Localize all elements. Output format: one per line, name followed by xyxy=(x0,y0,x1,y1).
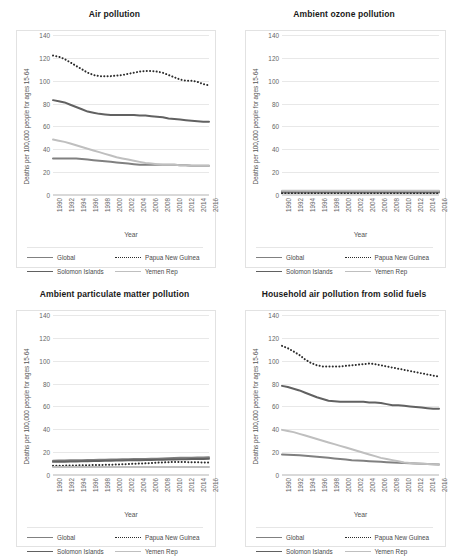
y-tick: 0 xyxy=(275,472,279,479)
chart-legend: GlobalPapua New GuineaSolomon IslandsYem… xyxy=(256,527,433,555)
legend-swatch-icon xyxy=(115,271,141,272)
legend-swatch-icon xyxy=(256,257,282,258)
x-tick: 2006 xyxy=(381,198,388,212)
legend-item-solomon-islands[interactable]: Solomon Islands xyxy=(256,548,345,555)
series-line-papua-new-guinea xyxy=(53,462,209,466)
legend-label: Solomon Islands xyxy=(286,548,333,555)
y-tick: 80 xyxy=(272,100,279,107)
x-tick: 2008 xyxy=(164,198,171,212)
x-axis-line xyxy=(53,194,209,195)
series-canvas xyxy=(282,35,439,195)
plot-region xyxy=(282,35,439,195)
y-tick: 60 xyxy=(43,123,50,130)
y-axis-ticks: 020406080100120140 xyxy=(32,35,52,195)
legend-item-solomon-islands[interactable]: Solomon Islands xyxy=(27,548,115,555)
x-tick: 2000 xyxy=(116,478,123,492)
y-tick: 20 xyxy=(272,169,279,176)
chart-area: Deaths per 100,000 people for ages 15-64… xyxy=(245,30,446,268)
y-tick: 40 xyxy=(43,426,50,433)
y-axis-label: Deaths per 100,000 people for ages 15-64 xyxy=(248,35,262,217)
panel-title: Household air pollution from solid fuels xyxy=(229,280,459,300)
legend-swatch-icon xyxy=(115,537,141,538)
x-tick: 1992 xyxy=(297,198,304,212)
y-tick: 0 xyxy=(46,472,50,479)
legend-item-solomon-islands[interactable]: Solomon Islands xyxy=(256,268,345,275)
x-tick: 2006 xyxy=(381,478,388,492)
legend-label: Solomon Islands xyxy=(286,268,333,275)
y-tick: 0 xyxy=(46,192,50,199)
panel-title: Air pollution xyxy=(0,0,229,20)
x-tick: 2010 xyxy=(176,478,183,492)
series-canvas xyxy=(53,35,209,195)
legend-label: Yemen Rep xyxy=(145,548,178,555)
x-tick: 2010 xyxy=(176,198,183,212)
panel-title: Ambient particulate matter pollution xyxy=(0,280,229,300)
legend-item-global[interactable]: Global xyxy=(256,534,345,541)
x-tick: 2004 xyxy=(369,198,376,212)
x-tick: 1996 xyxy=(321,198,328,212)
chart-area: Deaths per 100,000 people for ages 15-64… xyxy=(16,310,216,547)
x-axis-label: Year xyxy=(282,511,439,518)
series-line-yemen-rep xyxy=(282,430,439,465)
y-axis-ticks: 020406080100120140 xyxy=(32,315,52,475)
x-tick: 1992 xyxy=(297,478,304,492)
y-tick: 140 xyxy=(268,32,279,39)
legend-item-papua-new-guinea[interactable]: Papua New Guinea xyxy=(115,254,203,261)
x-tick: 2014 xyxy=(200,478,207,492)
x-tick: 2004 xyxy=(140,478,147,492)
legend-item-yemen-rep[interactable]: Yemen Rep xyxy=(345,268,434,275)
x-tick: 1998 xyxy=(333,198,340,212)
y-tick: 40 xyxy=(43,146,50,153)
y-axis-label: Deaths per 100,000 people for ages 15-64 xyxy=(248,315,262,497)
x-axis-ticks: 1990199219941996199820002002200420062008… xyxy=(282,477,439,509)
x-tick: 2016 xyxy=(212,198,219,212)
gridline xyxy=(282,195,439,196)
legend-swatch-icon xyxy=(345,537,371,538)
legend-item-papua-new-guinea[interactable]: Papua New Guinea xyxy=(115,534,203,541)
legend-label: Papua New Guinea xyxy=(145,254,200,261)
legend-item-yemen-rep[interactable]: Yemen Rep xyxy=(115,268,203,275)
legend-item-yemen-rep[interactable]: Yemen Rep xyxy=(115,548,203,555)
x-axis-label: Year xyxy=(282,231,439,238)
series-line-solomon-islands xyxy=(282,386,439,409)
y-tick: 20 xyxy=(43,449,50,456)
y-tick: 100 xyxy=(39,77,50,84)
y-axis-label: Deaths per 100,000 people for ages 15-64 xyxy=(19,35,33,217)
legend-item-papua-new-guinea[interactable]: Papua New Guinea xyxy=(345,254,434,261)
panel-ambient-particulate-matter-pollution: Ambient particulate matter pollutionDeat… xyxy=(0,280,229,559)
y-axis-ticks: 020406080100120140 xyxy=(261,35,281,195)
legend-item-global[interactable]: Global xyxy=(256,254,345,261)
y-tick: 60 xyxy=(272,403,279,410)
x-tick: 2012 xyxy=(188,198,195,212)
x-axis-line xyxy=(53,474,209,475)
y-tick: 140 xyxy=(39,32,50,39)
legend-swatch-icon xyxy=(345,551,371,552)
legend-item-yemen-rep[interactable]: Yemen Rep xyxy=(345,548,434,555)
series-line-solomon-islands xyxy=(53,100,209,122)
x-tick: 1994 xyxy=(309,478,316,492)
legend-label: Papua New Guinea xyxy=(145,534,200,541)
x-axis-line xyxy=(282,194,439,195)
x-tick: 1992 xyxy=(68,198,75,212)
panel-title: Ambient ozone pollution xyxy=(229,0,459,20)
y-tick: 60 xyxy=(272,123,279,130)
legend-item-papua-new-guinea[interactable]: Papua New Guinea xyxy=(345,534,434,541)
x-tick: 2004 xyxy=(140,198,147,212)
x-tick: 2012 xyxy=(417,198,424,212)
x-tick: 2008 xyxy=(164,478,171,492)
x-tick: 1998 xyxy=(104,478,111,492)
y-axis-label-text: Deaths per 100,000 people for ages 15-64 xyxy=(252,68,259,184)
x-tick: 2002 xyxy=(357,198,364,212)
plot-region xyxy=(53,35,209,195)
legend-item-global[interactable]: Global xyxy=(27,534,115,541)
panel-air-pollution: Air pollutionDeaths per 100,000 people f… xyxy=(0,0,229,280)
legend-item-solomon-islands[interactable]: Solomon Islands xyxy=(27,268,115,275)
legend-label: Global xyxy=(57,534,75,541)
x-tick: 2010 xyxy=(405,478,412,492)
x-tick: 1998 xyxy=(104,198,111,212)
series-line-papua-new-guinea xyxy=(282,346,439,377)
legend-label: Solomon Islands xyxy=(57,548,104,555)
legend-item-global[interactable]: Global xyxy=(27,254,115,261)
gridline xyxy=(53,195,209,196)
x-tick: 2010 xyxy=(405,198,412,212)
